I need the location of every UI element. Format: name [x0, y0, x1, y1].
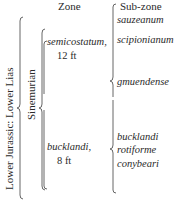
subzone-header: Sub-zone	[120, 0, 162, 12]
subzone-item: conybeari	[117, 158, 159, 169]
subzone-item: bucklandi	[117, 131, 158, 142]
subzone-item: scipionianum	[117, 34, 174, 45]
subzone-item: sauzeanum	[117, 14, 164, 25]
subzone-item: gmuendense	[117, 76, 169, 87]
stage-label: Sinemurian	[25, 69, 37, 120]
zone-brace-1	[44, 41, 47, 94]
subzone-brace-2	[110, 100, 116, 193]
zone-header: Zone	[58, 0, 81, 12]
zone-name-2: bucklandi,	[47, 141, 91, 152]
subzone-brace-1	[110, 4, 116, 97]
series-brace	[17, 17, 23, 199]
subzone-item: rotiforme	[117, 144, 156, 155]
series-label: Lower Jurassic: Lower Lias	[3, 68, 15, 191]
zone-thickness-2: 8 ft	[57, 155, 71, 166]
zone-thickness-1: 12 ft	[57, 50, 77, 61]
zone-name-1: semicostatum,	[47, 36, 107, 47]
